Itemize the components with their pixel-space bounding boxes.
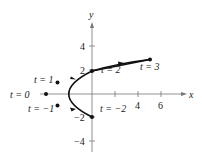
x-axis-label: x (188, 89, 194, 100)
label-t0: t = 0 (10, 89, 30, 100)
y-tick-4: 4 (80, 41, 85, 52)
y-tick-2: 2 (80, 65, 85, 76)
arrow-icon (70, 77, 76, 80)
label-t1: t = 1 (34, 74, 54, 85)
y-axis-label: y (88, 9, 94, 20)
point-t-2 (90, 69, 94, 73)
x-tick-4: 4 (135, 100, 140, 111)
point-t-minus-1 (56, 104, 60, 108)
x-tick-6: 6 (158, 100, 163, 111)
point-t-1 (56, 81, 60, 85)
label-t-minus-2: t = −2 (100, 103, 126, 114)
label-t-minus-1: t = −1 (28, 103, 54, 114)
y-axis-arrow-icon (90, 22, 94, 28)
x-axis-arrow-icon (181, 92, 187, 96)
parametric-plot: t = 0 t = 1 t = −1 t = 2 t = −2 t = 3 x … (0, 0, 202, 153)
label-t2: t = 2 (101, 64, 121, 75)
y-tick-minus-2: −2 (74, 112, 85, 123)
arrow-icon (70, 108, 76, 112)
y-tick-minus-4: −4 (74, 136, 85, 147)
label-t3: t = 3 (140, 61, 160, 72)
point-t-minus-2 (90, 115, 94, 119)
point-t-0 (44, 92, 48, 96)
